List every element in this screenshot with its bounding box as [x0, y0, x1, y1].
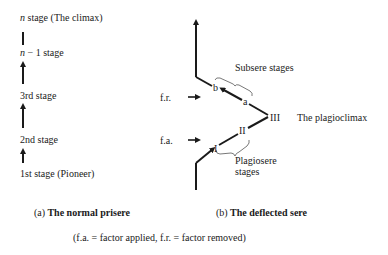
arrow-a-to-b — [222, 89, 242, 100]
node-I: I — [214, 143, 217, 155]
factor-applied-label: f.a. — [160, 135, 173, 147]
caption-b-prefix: (b) — [216, 207, 228, 218]
caption-a-prefix: (a) — [34, 207, 45, 218]
subsere-label: Subsere stages — [235, 62, 294, 74]
stage-1-label: 1st stage (Pioneer) — [20, 168, 94, 180]
node-a: a — [243, 96, 247, 108]
stage-2-label: 2nd stage — [20, 134, 58, 146]
node-b: b — [213, 82, 218, 94]
caption-b-text: The deflected sere — [230, 207, 307, 218]
caption-a-text: The normal prisere — [47, 207, 130, 218]
node-III: III — [270, 112, 280, 124]
caption-b: (b) The deflected sere — [216, 207, 307, 219]
subsere-brace — [215, 78, 252, 96]
plagioclimax-label: The plagioclimax — [297, 112, 367, 124]
III-to-a — [249, 104, 268, 115]
stage-3-label: 3rd stage — [20, 90, 56, 102]
plagiosere-label-line2: stages — [235, 166, 259, 178]
I-to-II — [219, 134, 238, 145]
stage-n-text: stage (The climax) — [25, 12, 102, 23]
factor-removed-label: f.r. — [160, 92, 171, 104]
b-to-corner — [196, 77, 212, 86]
arrow-to-I — [196, 149, 213, 163]
II-to-III — [248, 117, 268, 128]
stage-n-label: n stage (The climax) — [20, 12, 102, 24]
caption-a: (a) The normal prisere — [34, 207, 130, 219]
footnote: (f.a. = factor applied, f.r. = factor re… — [73, 232, 246, 244]
stage-n-minus-1-label: n − 1 stage — [20, 47, 64, 59]
stage-n1-text: − 1 stage — [25, 47, 64, 58]
node-II: II — [239, 125, 246, 137]
plagiosere-brace — [216, 140, 249, 156]
